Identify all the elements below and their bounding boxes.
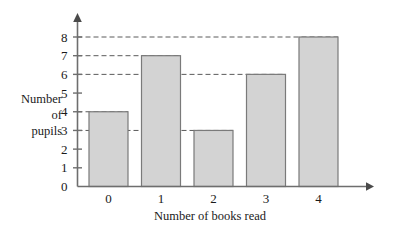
x-axis-arrow-icon xyxy=(366,182,374,191)
y-tick-label-8: 8 xyxy=(61,30,68,45)
y-axis-ticks: 012345678 xyxy=(61,30,82,195)
bar-chart-figure: Number of pupils 012345678 01234 Number … xyxy=(0,0,394,228)
y-tick-label-4: 4 xyxy=(61,104,68,119)
x-tick-label-4: 4 xyxy=(315,191,322,206)
y-tick-label-2: 2 xyxy=(61,142,68,157)
x-tick-label-3: 3 xyxy=(263,191,270,206)
y-tick-label-5: 5 xyxy=(61,86,68,101)
y-tick-label-0: 0 xyxy=(61,179,68,194)
bar-category-4 xyxy=(299,37,338,187)
x-axis-title: Number of books read xyxy=(154,209,267,223)
x-axis-ticks: 01234 xyxy=(105,191,322,206)
y-axis-arrow-icon xyxy=(73,13,82,22)
bar-category-1 xyxy=(142,56,181,187)
bar-category-2 xyxy=(194,130,233,186)
x-tick-label-2: 2 xyxy=(210,191,217,206)
y-tick-label-1: 1 xyxy=(61,160,68,175)
y-axis-title-line-1: Number xyxy=(21,92,63,106)
y-axis-title-line-3: pupils xyxy=(31,124,62,138)
x-tick-label-0: 0 xyxy=(105,191,112,206)
y-tick-label-6: 6 xyxy=(61,67,68,82)
x-tick-label-1: 1 xyxy=(158,191,165,206)
bar-category-3 xyxy=(247,74,286,186)
y-axis-title: Number of pupils xyxy=(21,92,63,138)
y-tick-label-3: 3 xyxy=(61,123,68,138)
bar-series xyxy=(89,37,338,187)
y-tick-label-7: 7 xyxy=(61,48,68,63)
bar-category-0 xyxy=(89,112,128,187)
chart-canvas: Number of pupils 012345678 01234 Number … xyxy=(0,0,394,228)
